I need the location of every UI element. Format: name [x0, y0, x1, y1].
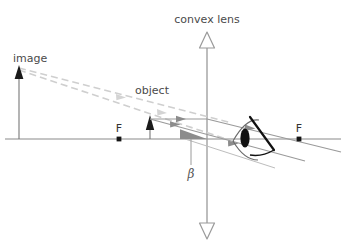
virtual-rays-dashed — [19, 68, 232, 139]
virtual-ray-arrowhead-b — [157, 109, 167, 116]
image-arrow — [15, 65, 24, 139]
focal-dot-right — [297, 137, 302, 142]
angle-beta-wedge — [180, 129, 207, 165]
focal-label-right: F — [296, 122, 302, 135]
ray-diagram-canvas: convex lens image object F F β — [0, 0, 344, 250]
focal-dot-left — [117, 137, 122, 142]
object-arrowhead — [146, 115, 154, 130]
lens-arrowhead-bottom — [200, 223, 215, 239]
focal-point-right — [297, 137, 302, 142]
optics-diagram: convex lens image object F F β — [0, 0, 344, 250]
focal-point-left — [117, 137, 122, 142]
angle-beta-label: β — [187, 167, 195, 181]
eye-tail-curve — [250, 150, 274, 155]
image-arrowhead — [15, 65, 24, 79]
convex-lens-label: convex lens — [174, 13, 240, 26]
virtual-ray-lower — [19, 70, 226, 139]
object-label: object — [135, 84, 170, 97]
image-label: image — [13, 52, 47, 65]
ray-parallel-arrowhead-in — [176, 116, 186, 122]
ray-parallel-refracted — [207, 119, 341, 152]
focal-label-left: F — [116, 122, 122, 135]
eye-pupil — [240, 128, 249, 147]
eye-lash-stroke — [250, 117, 274, 150]
lens-arrowhead-top — [200, 32, 215, 48]
virtual-ray-upper — [19, 68, 232, 123]
